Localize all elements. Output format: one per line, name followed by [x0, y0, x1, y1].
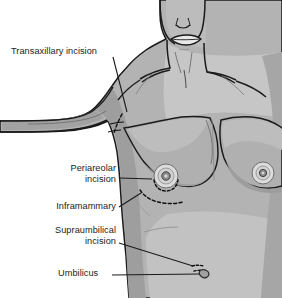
right-areola-group: [252, 162, 274, 184]
navel: [199, 270, 209, 278]
label-periareolar-line-1: Periareolar: [71, 163, 117, 173]
abdomen-highlight: [146, 212, 282, 298]
label-inframammary: Inframammary: [36, 201, 116, 212]
supraumbilical-dashed-mark: [192, 265, 204, 266]
label-periareolar-line-2: incision: [85, 174, 116, 184]
label-umbilicus: Umbilicus: [58, 268, 98, 279]
label-supraumbilical-line-1: Supraumbilical: [55, 225, 116, 235]
label-transaxillary-incision: Transaxillary incision: [11, 46, 97, 57]
label-supraumbilical-line-2: incision: [85, 236, 116, 246]
left-nipple-center: [164, 174, 167, 177]
torso-illustration: [0, 0, 282, 298]
figure-breast-incision-approaches: Transaxillary incision Periareolarincisi…: [0, 0, 282, 298]
right-nipple-center: [262, 172, 265, 175]
left-areola-group: [154, 164, 178, 188]
label-supraumbilical-incision: Supraumbilicalincision: [30, 225, 116, 248]
label-periareolar-incision: Periareolarincision: [44, 163, 116, 186]
